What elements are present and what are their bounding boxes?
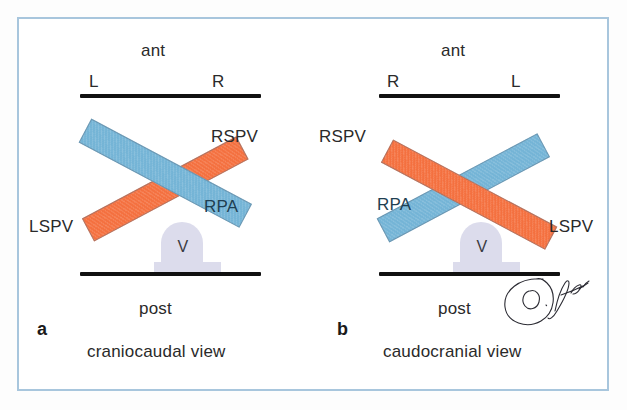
panel-a-left-side-label: L	[89, 72, 99, 92]
panel-a-craniocaudal: ant L R RSPV RPA LSPV V post a craniocau…	[19, 19, 315, 393]
panel-a-ant-label: ant	[141, 41, 165, 61]
panel-b-caudocranial: ant R L RSPV RPA LSPV V post b caudocran…	[311, 19, 607, 393]
panel-b-rspv-label: RSPV	[319, 127, 366, 147]
panel-b-rpa-label: RPA	[377, 195, 411, 215]
panel-b-letter: b	[337, 319, 348, 340]
panel-a-anterior-line	[80, 94, 261, 98]
panel-b-right-side-label: L	[511, 72, 521, 92]
panel-b-anterior-line	[379, 94, 560, 98]
panel-a-lspv-label: LSPV	[29, 217, 73, 237]
figure-container: ant L R RSPV RPA LSPV V post a craniocau…	[0, 0, 627, 410]
panel-a-rspv-label: RSPV	[211, 127, 258, 147]
panel-b-vertebra-label: V	[469, 238, 495, 256]
panel-b-ant-label: ant	[441, 41, 465, 61]
panel-a-rpa-label: RPA	[204, 197, 238, 217]
panel-a-letter: a	[37, 319, 47, 340]
panel-b-post-label: post	[438, 299, 471, 319]
panel-a-right-side-label: R	[212, 72, 224, 92]
panel-a-post-label: post	[139, 299, 172, 319]
panel-a-caption: craniocaudal view	[87, 342, 226, 362]
panel-a-posterior-line	[80, 272, 261, 276]
artist-signature: O. Jgauss	[499, 271, 591, 331]
panel-b-lspv-label: LSPV	[549, 217, 593, 237]
panel-b-left-side-label: R	[387, 72, 399, 92]
figure-frame: ant L R RSPV RPA LSPV V post a craniocau…	[17, 17, 609, 391]
panel-a-vertebra-label: V	[170, 238, 196, 256]
panel-b-caption: caudocranial view	[383, 342, 522, 362]
panel-a-vertebra: V	[154, 222, 221, 274]
panel-b-vertebra: V	[453, 222, 520, 274]
